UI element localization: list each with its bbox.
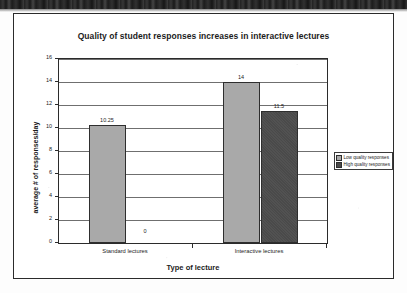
chart-title: Quality of student responses increases i…	[14, 31, 393, 41]
y-axis: average # of responses/day 0246810121416	[14, 58, 58, 244]
y-tick-label: 16	[46, 54, 52, 60]
x-category-label: Interactive lectures	[192, 248, 326, 254]
legend-label-low: Low quality responses	[344, 155, 389, 161]
y-axis-title: average # of responses/day	[32, 93, 39, 243]
x-axis-category-labels: Standard lecturesInteractive lectures	[58, 248, 328, 262]
y-tick-label: 2	[49, 215, 52, 221]
x-tick-mark	[326, 244, 327, 248]
bar-value-label: 11.5	[261, 103, 298, 109]
legend-label-high: High quality responses	[344, 162, 390, 168]
x-category-label: Standard lectures	[58, 248, 192, 254]
chart-frame: Quality of student responses increases i…	[13, 13, 394, 279]
x-axis-title: Type of lecture	[58, 263, 328, 272]
scan-artifact-fade	[0, 9, 407, 12]
y-tick-label: 12	[46, 100, 52, 106]
legend-item-low-quality: Low quality responses	[336, 154, 390, 161]
bar-value-label: 14	[223, 74, 260, 80]
y-tick-label: 0	[49, 238, 52, 244]
bar-high-1	[261, 111, 298, 243]
legend-swatch-icon-high	[336, 162, 342, 168]
bar-low-0	[89, 125, 126, 243]
y-tick-label: 10	[46, 123, 52, 129]
bar-series-group: 10.2501411.5	[59, 59, 327, 243]
scan-artifact-band	[0, 0, 407, 9]
y-tick-label: 8	[49, 146, 52, 152]
y-tick-label: 4	[49, 192, 52, 198]
y-tick-label: 14	[46, 77, 52, 83]
chart-legend: Low quality responses High quality respo…	[334, 152, 393, 170]
scanned-chart-page: Quality of student responses increases i…	[0, 0, 407, 293]
y-tick-label: 6	[49, 169, 52, 175]
bar-value-label: 10.25	[89, 117, 126, 123]
bar-value-label: 0	[127, 228, 164, 234]
plot-area: 10.2501411.5	[58, 58, 328, 244]
legend-swatch-icon-low	[336, 155, 342, 161]
bar-low-1	[223, 82, 260, 243]
legend-item-high-quality: High quality responses	[336, 161, 390, 168]
